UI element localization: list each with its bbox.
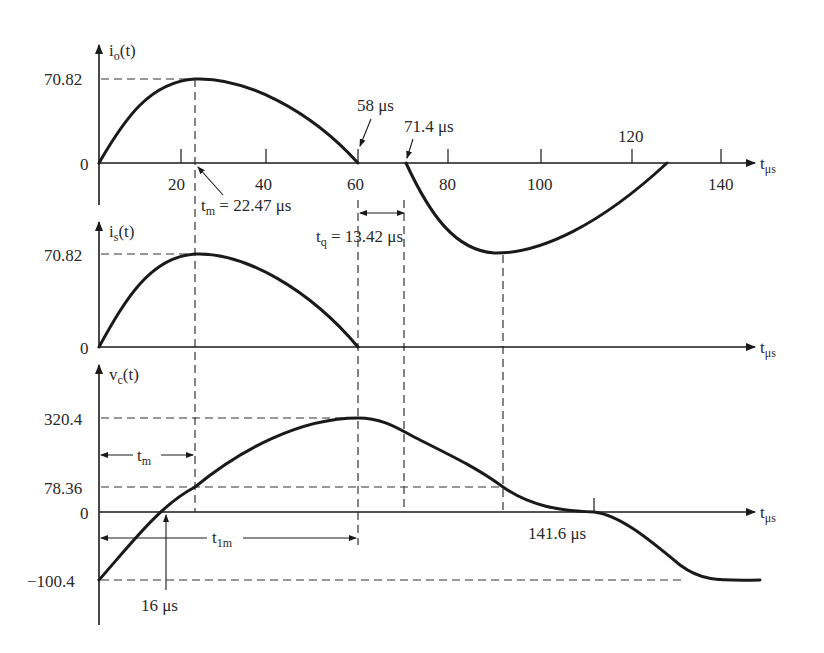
is-ytick-0: 0 (80, 339, 89, 358)
is-x-label: tμs (760, 338, 776, 360)
io-xtick-120: 120 (618, 127, 644, 146)
is-pulse (99, 254, 358, 347)
io-xtick-80: 80 (439, 175, 456, 194)
io-xtick-100: 100 (527, 175, 553, 194)
vc-y-label: vc(t) (109, 365, 139, 387)
io-positive-pulse (99, 79, 358, 163)
io-y-label: io(t) (109, 41, 136, 63)
io-annot-tm: tm = 22.47 μs (201, 196, 291, 218)
io-xtick-20: 20 (168, 175, 185, 194)
guide-lines (195, 79, 503, 545)
io-annot-58us: 58 μs (357, 96, 394, 115)
io-xtick-40: 40 (255, 175, 272, 194)
vc-ytick-0: 0 (80, 504, 89, 523)
waveform-diagram: 20 40 60 80 100 120 140 io(t) 70.82 0 58… (0, 0, 824, 653)
io-annot-71us: 71.4 μs (404, 117, 454, 136)
io-ytick-70.82: 70.82 (44, 70, 82, 89)
io-xtick-140: 140 (708, 175, 734, 194)
vc-ytick-neg100.4: −100.4 (27, 572, 75, 591)
is-y-label: is(t) (109, 222, 134, 244)
vc-annot-141us: 141.6 μs (528, 524, 586, 543)
vc-waveform (99, 418, 760, 580)
io-annot-tq: tq = 13.42 μs (316, 227, 403, 249)
panel-vc: vc(t) 320.4 78.36 0 −100.4 tm t1m 16 μs … (27, 365, 776, 625)
vc-annot-16us: 16 μs (141, 596, 178, 615)
panel-is: is(t) 70.82 0 tμs (44, 222, 776, 360)
io-x-ticks (181, 149, 721, 163)
vc-ytick-320.4: 320.4 (44, 410, 83, 429)
io-ytick-0: 0 (80, 155, 89, 174)
vc-x-label: tμs (760, 503, 776, 525)
io-x-label: tμs (760, 154, 776, 176)
panel-io: 20 40 60 80 100 120 140 io(t) 70.82 0 58… (44, 41, 755, 253)
is-ytick-70.82: 70.82 (44, 246, 82, 265)
io-xtick-60: 60 (347, 175, 364, 194)
vc-ytick-78.36: 78.36 (44, 479, 82, 498)
